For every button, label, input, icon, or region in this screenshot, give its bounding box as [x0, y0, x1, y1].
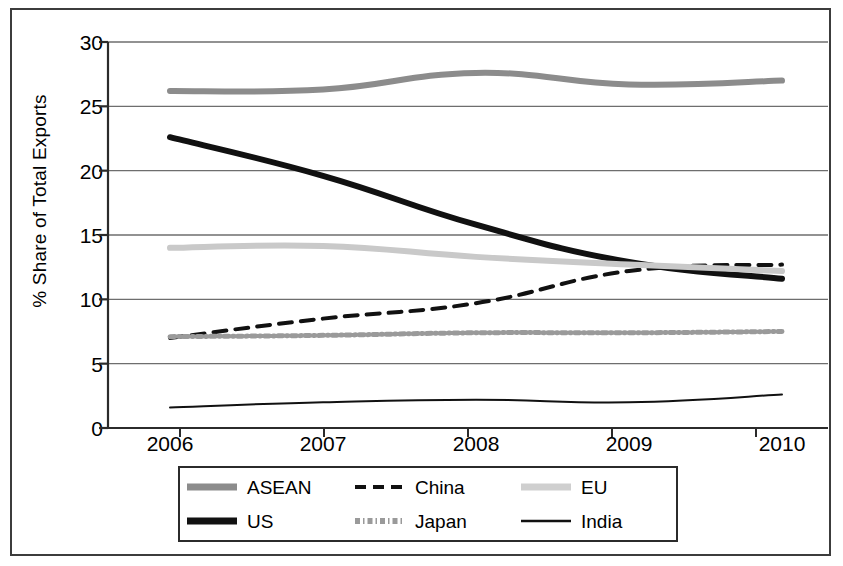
line-swatch-thin-black-icon [520, 514, 572, 528]
legend-label-asean: ASEAN [247, 478, 311, 497]
legend-label-china: China [415, 478, 465, 497]
line-swatch-thick-black-icon [186, 514, 238, 528]
legend-item-china[interactable]: China [354, 478, 520, 497]
chart-legend: ASEAN China EU US Japan [178, 466, 678, 542]
line-swatch-dashed-black-icon [354, 480, 406, 494]
legend-item-japan[interactable]: Japan [354, 512, 520, 531]
x-tick-label: 2010 [759, 432, 806, 456]
y-tick-marks [99, 42, 108, 428]
line-swatch-thick-lightgray-icon [520, 480, 572, 494]
chart-area: % Share of Total Exports 051015202530 20… [0, 0, 843, 566]
legend-item-india[interactable]: India [520, 512, 680, 531]
series-line-japan [170, 332, 782, 337]
series-line-india [170, 395, 782, 408]
legend-label-eu: EU [581, 478, 607, 497]
legend-label-india: India [581, 512, 622, 531]
legend-item-us[interactable]: US [186, 512, 354, 531]
x-tick-label: 2009 [606, 432, 653, 456]
legend-item-asean[interactable]: ASEAN [186, 478, 354, 497]
legend-item-eu[interactable]: EU [520, 478, 680, 497]
data-series-group [170, 73, 782, 408]
line-swatch-thick-gray-icon [186, 480, 238, 494]
legend-label-us: US [247, 512, 273, 531]
x-tick-label: 2007 [300, 432, 347, 456]
x-tick-label: 2006 [147, 432, 194, 456]
series-line-asean [170, 73, 782, 92]
line-swatch-dotted-gray-icon [354, 514, 406, 528]
legend-label-japan: Japan [415, 512, 467, 531]
series-line-eu [170, 245, 782, 271]
x-tick-label: 2008 [453, 432, 500, 456]
series-line-china [170, 265, 782, 338]
